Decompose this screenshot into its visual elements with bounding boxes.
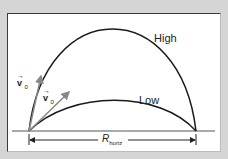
high-label: High <box>154 32 177 44</box>
steep-velocity-label: → v 0 <box>17 78 28 90</box>
low-trajectory <box>29 100 196 131</box>
shallow-velocity-label: → v 0 <box>43 93 54 105</box>
low-label: Low <box>139 94 159 106</box>
range-label: Rhoriz <box>100 133 124 146</box>
high-trajectory <box>29 29 196 131</box>
